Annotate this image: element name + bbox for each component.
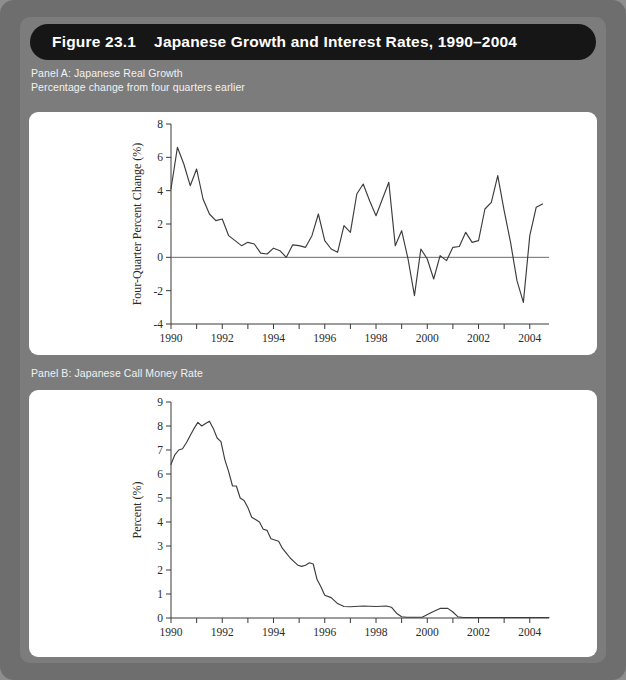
x-tick-label: 1992 [211, 626, 234, 638]
data-series-line [171, 421, 549, 617]
y-tick-label: 6 [157, 151, 163, 163]
panel-a-caption: Panel A: Japanese Real Growth Percentage… [31, 67, 245, 94]
y-tick-label: -4 [153, 318, 163, 330]
y-axis-title: Percent (%) [130, 482, 144, 539]
panel-b-caption: Panel B: Japanese Call Money Rate [31, 367, 203, 381]
figure-inner-panel: Figure 23.1 Japanese Growth and Interest… [20, 17, 606, 663]
x-tick-label: 1992 [211, 332, 234, 344]
y-tick-label: 3 [157, 540, 163, 552]
y-tick-label: 8 [157, 118, 163, 130]
y-tick-label: 4 [157, 185, 163, 197]
panel-b-chart: 0123456789199019921994199619982000200220… [29, 390, 597, 657]
y-tick-label: 7 [157, 444, 163, 456]
y-tick-label: 6 [157, 468, 163, 480]
y-tick-label: 5 [157, 492, 163, 504]
x-tick-label: 2004 [518, 332, 541, 344]
y-tick-label: 4 [157, 516, 163, 528]
x-tick-label: 2000 [416, 626, 439, 638]
x-tick-label: 1996 [313, 626, 336, 638]
x-tick-label: 2004 [518, 626, 541, 638]
y-tick-label: 2 [157, 218, 163, 230]
y-axis-title: Four-Quarter Percent Change (%) [130, 143, 144, 306]
y-tick-label: -2 [153, 285, 163, 297]
figure-title-bar: Figure 23.1 Japanese Growth and Interest… [30, 24, 596, 60]
x-tick-label: 1990 [160, 626, 183, 638]
y-tick-label: 0 [157, 251, 163, 263]
x-tick-label: 2002 [467, 626, 490, 638]
y-tick-label: 1 [157, 588, 163, 600]
x-tick-label: 1998 [365, 626, 388, 638]
x-tick-label: 1998 [365, 332, 388, 344]
y-tick-label: 9 [157, 396, 163, 408]
x-tick-label: 2002 [467, 332, 490, 344]
x-tick-label: 1990 [160, 332, 183, 344]
y-tick-label: 0 [157, 612, 163, 624]
y-tick-label: 2 [157, 564, 163, 576]
panel-a-chart: -4-2024681990199219941996199820002002200… [29, 112, 597, 355]
panel-a-chart-card: -4-2024681990199219941996199820002002200… [29, 112, 597, 355]
x-tick-label: 1996 [313, 332, 336, 344]
x-tick-label: 1994 [262, 626, 285, 638]
figure-outer-frame: Figure 23.1 Japanese Growth and Interest… [0, 0, 626, 680]
data-series-line [171, 147, 543, 302]
panel-b-chart-card: 0123456789199019921994199619982000200220… [29, 390, 597, 657]
x-tick-label: 2000 [416, 332, 439, 344]
y-tick-label: 8 [157, 420, 163, 432]
x-tick-label: 1994 [262, 332, 285, 344]
page-title: Figure 23.1 Japanese Growth and Interest… [30, 33, 517, 51]
